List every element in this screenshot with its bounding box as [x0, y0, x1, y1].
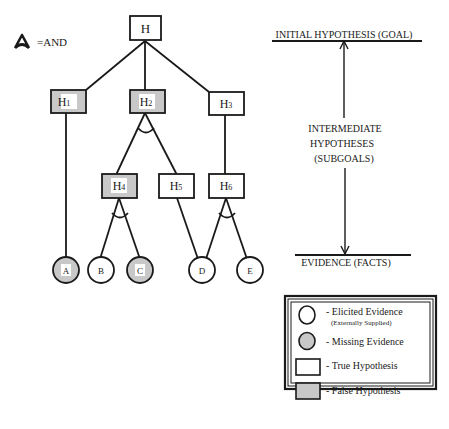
scale-middle-label-2: HYPOTHESES — [310, 138, 374, 149]
svg-text:D: D — [199, 266, 206, 276]
svg-text:- Elicited Evidence: - Elicited Evidence — [326, 306, 403, 317]
abstraction-scale: INITIAL HYPOTHESIS (GOAL) INTERMEDIATE H… — [272, 29, 422, 269]
svg-text:C: C — [137, 266, 143, 276]
svg-text:A: A — [63, 266, 70, 276]
false-hypothesis-icon — [296, 383, 320, 399]
node-e: E — [237, 257, 263, 283]
scale-top-label: INITIAL HYPOTHESIS (GOAL) — [276, 29, 413, 41]
elicited-evidence-icon — [299, 306, 315, 324]
node-c: C — [127, 257, 153, 283]
legend-box: - Elicited Evidence (Externally Supplied… — [285, 296, 436, 399]
true-hypothesis-icon — [296, 359, 320, 375]
node-h1: H1 — [51, 90, 86, 113]
svg-text:E: E — [247, 266, 253, 276]
node-d: D — [189, 257, 215, 283]
missing-evidence-icon — [299, 333, 315, 350]
node-h3: H3 — [209, 92, 244, 115]
svg-text:B: B — [98, 266, 104, 276]
node-h2: H2 — [130, 90, 165, 113]
and-arc-icon — [15, 35, 29, 48]
svg-text:H: H — [141, 21, 150, 36]
node-b: B — [88, 257, 114, 283]
hypothesis-tree-diagram: =AND H H1 H2 — [0, 0, 449, 429]
svg-text:- True Hypothesis: - True Hypothesis — [326, 360, 398, 371]
node-h6: H6 — [209, 174, 244, 198]
node-a: A — [53, 257, 79, 283]
svg-text:- Missing Evidence: - Missing Evidence — [326, 336, 404, 347]
node-h4: H4 — [102, 174, 137, 198]
svg-text:(Externally Supplied): (Externally Supplied) — [331, 319, 392, 327]
tree-edges — [66, 41, 247, 260]
scale-bottom-label: EVIDENCE (FACTS) — [301, 257, 391, 269]
and-legend: =AND — [15, 35, 67, 48]
and-legend-label: =AND — [37, 36, 67, 48]
scale-middle-label-3: (SUBGOALS) — [314, 153, 373, 165]
evidence-nodes: A B C D E — [53, 257, 263, 283]
node-h5: H5 — [159, 174, 194, 198]
scale-middle-label-1: INTERMEDIATE — [308, 123, 381, 134]
svg-text:- False Hypothesis: - False Hypothesis — [326, 385, 401, 396]
and-arc-h2 — [138, 128, 154, 133]
node-h: H — [130, 16, 161, 40]
legend-item-false: - False Hypothesis — [296, 383, 401, 399]
